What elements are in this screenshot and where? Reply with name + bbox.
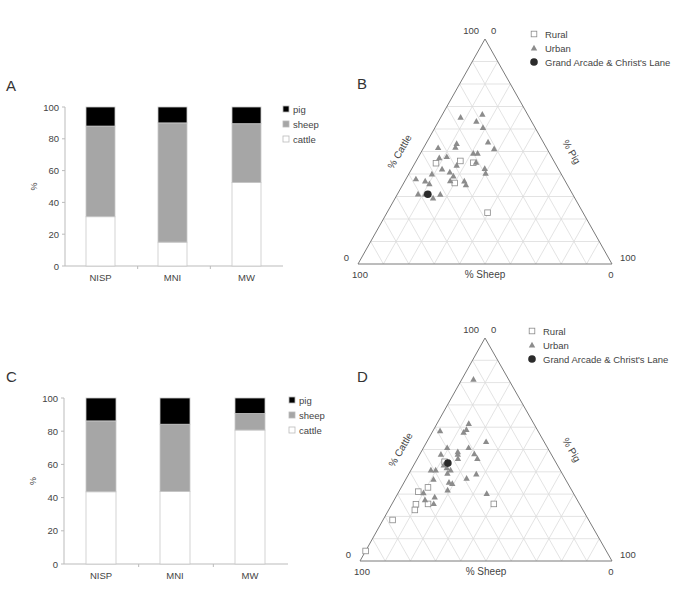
- bar-mni-sheep: [160, 424, 190, 491]
- rural-marker: [363, 548, 369, 554]
- y-tick-label: 0: [54, 261, 59, 272]
- legend-label: Grand Arcade & Christ's Lane: [545, 57, 670, 68]
- panel-label-a: A: [6, 77, 16, 94]
- bar-chart-a-plot: 020406080100%NISPMNIMWpigsheepcattle: [29, 102, 319, 284]
- series-circle: [424, 190, 432, 198]
- ternary-plot-d-plot: 100001001000% Cattle% Pig% SheepRuralUrb…: [346, 324, 669, 577]
- legend-swatch-sheep: [289, 412, 295, 418]
- corner-label: 100: [620, 252, 636, 263]
- rural-marker: [425, 485, 431, 491]
- y-tick-label: 60: [47, 459, 58, 470]
- x-tick-label: NISP: [89, 272, 111, 283]
- bar-mw-pig: [232, 107, 261, 124]
- urban-marker: [413, 176, 419, 182]
- rural-marker: [413, 502, 419, 508]
- y-tick-label: 20: [48, 229, 59, 240]
- urban-marker: [474, 455, 480, 461]
- urban-marker: [431, 494, 437, 500]
- urban-marker: [437, 191, 443, 197]
- bar-nisp-pig: [86, 107, 115, 126]
- bar-mw-pig: [235, 398, 265, 414]
- legend-label-pig: pig: [299, 395, 312, 406]
- pig-axis-label: % Pig: [560, 138, 583, 166]
- y-tick-label: 20: [47, 525, 58, 536]
- legend-label-sheep: sheep: [299, 410, 325, 421]
- corner-label: 100: [352, 269, 368, 280]
- bar-mni-sheep: [158, 123, 187, 242]
- urban-marker: [470, 376, 476, 382]
- legend-item-rural: Rural: [531, 29, 568, 40]
- bar-chart-c: C 020406080100%NISPMNIMWpigsheepcattle: [6, 368, 325, 581]
- urban-marker: [473, 118, 479, 124]
- series-circle: [444, 459, 452, 467]
- ternary-grid: [371, 62, 600, 265]
- legend-swatch-cattle: [289, 427, 295, 433]
- bar-mw-sheep: [235, 414, 265, 430]
- urban-marker: [485, 139, 491, 145]
- urban-marker: [529, 342, 535, 348]
- bar-mni-pig: [160, 398, 190, 424]
- panel-label-d: D: [357, 368, 368, 385]
- rural-marker: [491, 501, 497, 507]
- legend-item-grand_arcade: Grand Arcade & Christ's Lane: [530, 57, 670, 68]
- legend-item-rural: Rural: [529, 326, 566, 337]
- y-tick-label: 40: [48, 197, 59, 208]
- urban-marker: [480, 124, 486, 130]
- x-tick-label: MW: [238, 272, 255, 283]
- legend-label: Grand Arcade & Christ's Lane: [543, 354, 668, 365]
- urban-marker: [474, 150, 480, 156]
- ternary-plot-b-plot: 100001001000% Cattle% Pig% SheepRuralUrb…: [344, 25, 671, 280]
- y-axis-label: %: [28, 477, 38, 485]
- rural-marker: [390, 517, 396, 523]
- x-tick-label: MNI: [166, 570, 183, 581]
- urban-marker: [484, 490, 490, 496]
- urban-marker: [453, 140, 459, 146]
- y-axis-label: %: [29, 182, 39, 190]
- bar-nisp-cattle: [86, 492, 116, 564]
- bar-mw-cattle: [232, 183, 261, 266]
- corner-label: 100: [620, 549, 636, 560]
- urban-marker: [415, 191, 421, 197]
- urban-marker: [435, 144, 441, 150]
- corner-label: 0: [608, 269, 613, 280]
- grand-arcade-marker: [530, 58, 538, 66]
- legend-label: Rural: [545, 29, 568, 40]
- legend-label-cattle: cattle: [299, 425, 322, 436]
- ternary-grid: [373, 360, 600, 561]
- rural-marker: [531, 31, 537, 37]
- legend-item-urban: Urban: [529, 340, 569, 351]
- legend-item-grand_arcade: Grand Arcade & Christ's Lane: [528, 354, 668, 365]
- bar-nisp-cattle: [86, 217, 115, 266]
- legend-label: Urban: [543, 340, 569, 351]
- rural-marker: [415, 489, 421, 495]
- legend-swatch-pig: [289, 397, 295, 403]
- bar-nisp-sheep: [86, 421, 116, 492]
- x-tick-label: MNI: [164, 272, 181, 283]
- urban-marker: [483, 438, 489, 444]
- urban-marker: [463, 475, 469, 481]
- cattle-axis-label: % Cattle: [385, 132, 414, 171]
- urban-marker: [447, 169, 453, 175]
- panel-label-b: B: [357, 75, 367, 92]
- bar-mni-pig: [158, 107, 187, 123]
- corner-label: 100: [463, 25, 479, 36]
- y-tick-label: 0: [53, 559, 58, 570]
- urban-marker: [482, 165, 488, 171]
- corner-label: 100: [463, 324, 479, 335]
- bar-chart-a: A 020406080100%NISPMNIMWpigsheepcattle: [6, 77, 319, 283]
- corner-label: 0: [346, 549, 351, 560]
- legend-label-sheep: sheep: [293, 119, 319, 130]
- bar-chart-c-plot: 020406080100%NISPMNIMWpigsheepcattle: [28, 393, 325, 582]
- grand-arcade-marker: [444, 459, 452, 467]
- legend-label: Urban: [545, 43, 571, 54]
- urban-marker: [479, 111, 485, 117]
- grand-arcade-marker: [528, 355, 536, 363]
- corner-label: 0: [344, 252, 349, 263]
- corner-label: 0: [491, 324, 496, 335]
- rural-marker: [529, 328, 535, 334]
- bar-nisp-pig: [86, 398, 116, 421]
- corner-label: 100: [354, 566, 370, 577]
- legend-swatch-sheep: [283, 121, 289, 127]
- urban-marker: [436, 155, 442, 161]
- x-tick-label: NISP: [90, 570, 112, 581]
